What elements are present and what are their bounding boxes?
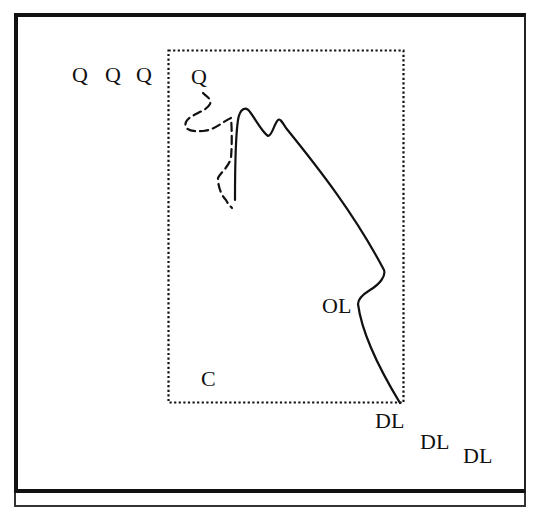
label-q-3: Q bbox=[136, 64, 152, 86]
label-q-2: Q bbox=[105, 64, 121, 86]
label-dl-3: DL bbox=[463, 445, 492, 467]
dotted-rectangle bbox=[169, 51, 404, 403]
label-dl-2: DL bbox=[420, 431, 449, 453]
label-ol: OL bbox=[322, 295, 351, 317]
label-q-1: Q bbox=[72, 64, 88, 86]
label-dl-1: DL bbox=[375, 410, 404, 432]
dashed-curve bbox=[185, 93, 232, 208]
label-q-4: Q bbox=[191, 66, 207, 88]
label-c: C bbox=[201, 368, 216, 390]
solid-curve bbox=[235, 109, 400, 403]
